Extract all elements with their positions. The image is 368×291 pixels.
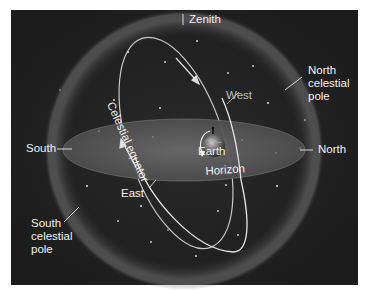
south-celestial-pole-label: South celestial pole xyxy=(31,217,73,256)
east-label: East xyxy=(121,187,144,200)
zenith-label: Zenith xyxy=(189,13,221,26)
north-label: North xyxy=(318,143,346,156)
horizon-plane xyxy=(63,119,305,181)
earth-label: Earth xyxy=(198,145,226,158)
west-label: West xyxy=(226,89,252,102)
south-label: South xyxy=(26,142,56,155)
horizon-label: Horizon xyxy=(205,162,245,178)
north-celestial-pole-label: North celestial pole xyxy=(308,64,350,103)
